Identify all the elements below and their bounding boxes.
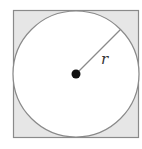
radius-label: r xyxy=(101,50,109,68)
inscribed-circle-diagram: r xyxy=(0,0,142,149)
center-point xyxy=(72,70,81,79)
